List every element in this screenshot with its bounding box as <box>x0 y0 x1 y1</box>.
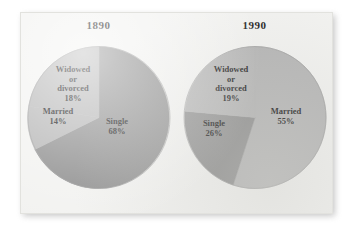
chart-panel: 1890 Widowed or divorced 18% <box>20 12 333 214</box>
chart-title-1890: 1890 <box>21 19 176 31</box>
pie-slice-widowed-divorced-1990[interactable] <box>184 47 254 118</box>
pie-svg-1890 <box>26 45 171 190</box>
pie-graphic-1990: Widowed or divorced 19% Single 26% Marri… <box>182 45 327 190</box>
pie-graphic-1890: Widowed or divorced 18% Married 14% Sing… <box>26 45 171 190</box>
pie-chart-1990: 1990 Widowed or divorced 19% <box>177 13 332 213</box>
pie-chart-1890: 1890 Widowed or divorced 18% <box>21 13 176 213</box>
figure-root: 1890 Widowed or divorced 18% <box>0 0 348 229</box>
chart-title-1990: 1990 <box>177 19 332 31</box>
pie-slice-widowed-divorced-1890[interactable] <box>28 46 98 117</box>
pie-svg-1990 <box>182 45 327 190</box>
